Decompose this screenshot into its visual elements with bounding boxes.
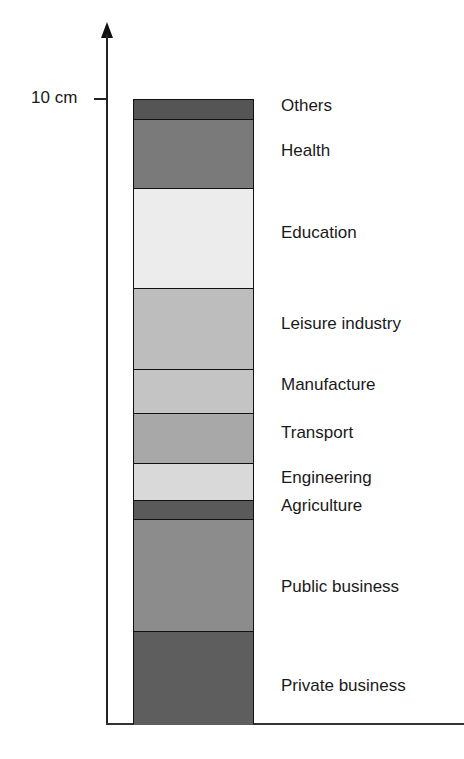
label-engineering: Engineering [281, 468, 372, 488]
segment-manufacture [134, 369, 253, 413]
segment-health [134, 119, 253, 188]
segment-public-business [134, 519, 253, 632]
segment-agriculture [134, 500, 253, 519]
label-private-business: Private business [281, 676, 406, 696]
y-tick-10cm [94, 98, 107, 100]
segment-transport [134, 413, 253, 463]
y-tick-label: 10 cm [31, 88, 77, 108]
segment-engineering [134, 463, 253, 501]
label-education: Education [281, 223, 357, 243]
y-axis [106, 34, 108, 725]
segment-leisure-industry [134, 288, 253, 369]
stacked-bar [133, 99, 254, 724]
label-leisure-industry: Leisure industry [281, 314, 401, 334]
segment-education [134, 188, 253, 288]
label-agriculture: Agriculture [281, 496, 362, 516]
segment-others [134, 100, 253, 119]
label-health: Health [281, 141, 330, 161]
segment-private-business [134, 631, 253, 725]
label-public-business: Public business [281, 577, 399, 597]
label-others: Others [281, 96, 332, 116]
label-transport: Transport [281, 423, 353, 443]
label-manufacture: Manufacture [281, 375, 376, 395]
stacked-bar-chart: 10 cm OthersHealthEducationLeisure indus… [0, 0, 464, 759]
